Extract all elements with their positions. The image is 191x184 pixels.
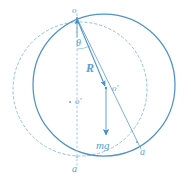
top-vertex-marker (76, 17, 78, 19)
bottom-contact-marker (76, 156, 78, 158)
label-radius-vector-R: R (86, 62, 94, 74)
label-center-left-o-prime: o′ (75, 97, 81, 106)
left-center-point-marker (69, 101, 71, 103)
label-contact-bottom-a: a (72, 164, 77, 174)
label-contact-right-a: a (140, 147, 145, 157)
chord-line (77, 18, 141, 149)
label-angle-theta: θ (76, 38, 81, 48)
label-top-vertex-o: o (72, 6, 77, 15)
radius-vector-R (77, 19, 105, 86)
physics-diagram: o θ R o′ o′ mg a a (0, 0, 191, 184)
label-weight-mg: mg (96, 140, 109, 151)
center-point-marker (105, 87, 107, 89)
right-contact-marker (136, 141, 138, 143)
diagram-canvas (0, 0, 191, 184)
label-center-right-o-prime: o′ (112, 84, 118, 93)
